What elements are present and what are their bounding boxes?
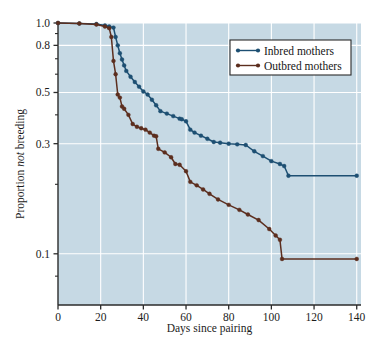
- data-point: [261, 154, 265, 158]
- data-point: [173, 162, 177, 166]
- data-point: [126, 113, 130, 117]
- data-point: [188, 128, 192, 132]
- data-point: [144, 128, 148, 132]
- data-point: [165, 112, 169, 116]
- x-tick-label-140: 140: [348, 311, 366, 323]
- data-point: [154, 103, 158, 107]
- data-point: [118, 51, 122, 55]
- data-point: [112, 59, 116, 63]
- data-point: [131, 122, 135, 126]
- chart-legend: Inbred mothersOutbred mothers: [230, 40, 351, 75]
- data-point: [180, 117, 184, 121]
- data-point: [235, 142, 239, 146]
- data-point: [184, 169, 188, 173]
- data-point: [208, 192, 212, 196]
- y-axis-title-suffix: breeding: [14, 109, 27, 152]
- data-point: [114, 35, 118, 39]
- data-point: [184, 119, 188, 123]
- legend-swatch-marker-end: [256, 48, 260, 52]
- data-point: [244, 143, 248, 147]
- x-tick-label-120: 120: [305, 311, 323, 323]
- data-point: [129, 75, 133, 79]
- data-point: [169, 155, 173, 159]
- y-axis-title: Proportion not breeding: [14, 109, 27, 219]
- y-tick-label-0.8: 0.8: [36, 39, 51, 51]
- y-tick-label-0.3: 0.3: [36, 138, 51, 150]
- data-point: [355, 257, 359, 261]
- data-point: [94, 23, 98, 27]
- data-point: [267, 227, 271, 231]
- data-point: [133, 80, 137, 84]
- data-point: [150, 98, 154, 102]
- x-tick-label-0: 0: [55, 311, 61, 323]
- data-point: [107, 26, 111, 30]
- data-point: [118, 96, 122, 100]
- data-point: [227, 203, 231, 207]
- y-axis-title-prefix: Proportion: [14, 167, 27, 219]
- survival-curve-chart: 1.00.80.50.30.1020406080100120140 Days s…: [0, 0, 376, 358]
- data-point: [287, 174, 291, 178]
- data-point: [178, 163, 182, 167]
- data-point: [201, 188, 205, 192]
- x-axis-title: Days since pairing: [167, 322, 253, 335]
- data-point: [137, 85, 141, 89]
- x-tick-label-20: 20: [95, 311, 107, 323]
- data-point: [199, 134, 203, 138]
- data-point: [139, 126, 143, 130]
- x-tick-label-100: 100: [263, 311, 281, 323]
- data-point: [163, 150, 167, 154]
- data-point: [114, 72, 118, 76]
- data-point: [257, 218, 261, 222]
- data-point: [158, 109, 162, 113]
- data-point: [252, 149, 256, 153]
- data-point: [278, 238, 282, 242]
- data-point: [355, 174, 359, 178]
- data-point: [141, 90, 145, 94]
- y-axis-title-emphasis: not: [14, 151, 26, 167]
- data-point: [56, 21, 60, 25]
- data-point: [193, 131, 197, 135]
- y-tick-label-0.1: 0.1: [36, 248, 51, 260]
- data-point: [112, 26, 116, 30]
- data-point: [212, 140, 216, 144]
- data-point: [109, 35, 113, 39]
- data-point: [195, 183, 199, 187]
- data-point: [216, 197, 220, 201]
- y-tick-label-0.5: 0.5: [36, 86, 51, 98]
- data-point: [154, 134, 158, 138]
- figure-container: 1.00.80.50.30.1020406080100120140 Days s…: [0, 0, 376, 358]
- legend-label: Inbred mothers: [264, 45, 334, 57]
- data-point: [122, 107, 126, 111]
- data-point: [274, 234, 278, 238]
- x-tick-label-40: 40: [138, 311, 150, 323]
- data-point: [218, 141, 222, 145]
- y-tick-label-1.0: 1.0: [36, 17, 51, 29]
- data-point: [77, 22, 81, 26]
- data-point: [156, 147, 160, 151]
- data-point: [205, 137, 209, 141]
- data-point: [171, 114, 175, 118]
- legend-swatch-marker-start: [236, 63, 240, 67]
- data-point: [148, 131, 152, 135]
- data-point: [120, 58, 124, 62]
- legend-swatch-marker-start: [236, 48, 240, 52]
- data-point: [116, 43, 120, 47]
- data-point: [269, 159, 273, 163]
- data-point: [282, 164, 286, 168]
- legend-label: Outbred mothers: [264, 60, 342, 72]
- data-point: [103, 25, 107, 29]
- data-point: [278, 162, 282, 166]
- legend-swatch-marker-end: [256, 63, 260, 67]
- data-point: [237, 208, 241, 212]
- data-point: [146, 93, 150, 97]
- data-point: [188, 180, 192, 184]
- data-point: [122, 63, 126, 67]
- data-point: [280, 257, 284, 261]
- data-point: [227, 142, 231, 146]
- data-point: [135, 125, 139, 129]
- data-point: [124, 69, 128, 73]
- data-point: [246, 213, 250, 217]
